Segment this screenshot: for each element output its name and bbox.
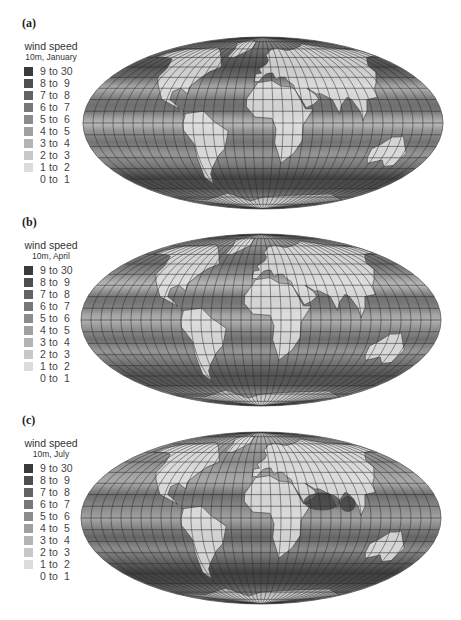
legend-range-label: 3 to 4 xyxy=(40,137,70,149)
legend-swatch xyxy=(24,290,33,299)
legend-title: wind speed xyxy=(20,40,82,52)
legend-range-label: 5 to 6 xyxy=(40,510,70,522)
legend-range-label: 4 to 5 xyxy=(40,125,70,137)
legend-range-label: 6 to 7 xyxy=(40,101,70,113)
panel-label: (c) xyxy=(22,413,35,428)
legend-range-label: 9 to 30 xyxy=(40,65,73,77)
legend-item: 8 to 9 xyxy=(20,276,82,288)
legend-item: 2 to 3 xyxy=(20,546,82,558)
legend-swatch xyxy=(24,91,33,100)
legend: wind speed 10m, July 9 to 308 to 97 to 8… xyxy=(20,437,82,582)
legend-item: 3 to 4 xyxy=(20,336,82,348)
legend-item: 7 to 8 xyxy=(20,288,82,300)
legend-item: 7 to 8 xyxy=(20,89,82,101)
legend-swatch xyxy=(24,266,33,275)
legend-swatch xyxy=(24,127,33,136)
legend-item: 1 to 2 xyxy=(20,558,82,570)
legend-swatch xyxy=(24,338,33,347)
legend-range-label: 1 to 2 xyxy=(40,558,70,570)
legend-item: 6 to 7 xyxy=(20,498,82,510)
legend-title: wind speed xyxy=(20,437,82,449)
legend-item: 7 to 8 xyxy=(20,486,82,498)
legend-swatch xyxy=(24,488,33,497)
legend-item: 5 to 6 xyxy=(20,510,82,522)
legend-swatch xyxy=(24,464,33,473)
legend-range-label: 2 to 3 xyxy=(40,149,70,161)
legend-item: 8 to 9 xyxy=(20,474,82,486)
legend-range-label: 8 to 9 xyxy=(40,474,70,486)
legend: wind speed 10m, January 9 to 308 to 97 t… xyxy=(20,40,82,185)
legend-swatch xyxy=(24,302,33,311)
world-map-july xyxy=(78,430,444,608)
legend-swatch xyxy=(24,560,33,569)
legend-range-label: 0 to 1 xyxy=(40,372,70,384)
legend-item: 4 to 5 xyxy=(20,324,82,336)
legend-swatch xyxy=(24,362,33,371)
legend-rows: 9 to 308 to 97 to 86 to 75 to 64 to 53 t… xyxy=(20,264,82,384)
legend-swatch xyxy=(24,151,33,160)
legend-range-label: 9 to 30 xyxy=(40,264,73,276)
legend-title: wind speed xyxy=(20,239,82,251)
legend-swatch xyxy=(24,548,33,557)
legend-item: 4 to 5 xyxy=(20,522,82,534)
legend: wind speed 10m, April 9 to 308 to 97 to … xyxy=(20,239,82,384)
legend-range-label: 1 to 2 xyxy=(40,161,70,173)
legend-swatch xyxy=(24,163,33,172)
legend-range-label: 0 to 1 xyxy=(40,570,70,582)
panel-a: (a) wind speed 10m, January 9 to 308 to … xyxy=(0,0,461,205)
legend-swatch xyxy=(24,326,33,335)
legend-range-label: 7 to 8 xyxy=(40,486,70,498)
panel-b: (b) wind speed 10m, April 9 to 308 to 97… xyxy=(0,200,461,405)
legend-item: 9 to 30 xyxy=(20,264,82,276)
legend-item: 5 to 6 xyxy=(20,113,82,125)
legend-item: 6 to 7 xyxy=(20,300,82,312)
legend-swatch xyxy=(24,278,33,287)
legend-range-label: 1 to 2 xyxy=(40,360,70,372)
legend-swatch xyxy=(24,314,33,323)
legend-swatch xyxy=(24,350,33,359)
legend-item: 9 to 30 xyxy=(20,462,82,474)
legend-range-label: 0 to 1 xyxy=(40,173,70,185)
legend-item: 8 to 9 xyxy=(20,77,82,89)
legend-subtitle: 10m, July xyxy=(20,449,82,460)
legend-range-label: 6 to 7 xyxy=(40,300,70,312)
panel-c: (c) wind speed 10m, July 9 to 308 to 97 … xyxy=(0,400,461,615)
legend-item: 0 to 1 xyxy=(20,570,82,582)
legend-range-label: 4 to 5 xyxy=(40,324,70,336)
legend-item: 1 to 2 xyxy=(20,360,82,372)
legend-item: 2 to 3 xyxy=(20,149,82,161)
legend-swatch xyxy=(24,374,33,383)
legend-item: 6 to 7 xyxy=(20,101,82,113)
legend-item: 4 to 5 xyxy=(20,125,82,137)
legend-swatch xyxy=(24,512,33,521)
legend-item: 3 to 4 xyxy=(20,137,82,149)
legend-range-label: 7 to 8 xyxy=(40,288,70,300)
legend-range-label: 5 to 6 xyxy=(40,312,70,324)
legend-range-label: 2 to 3 xyxy=(40,348,70,360)
legend-range-label: 5 to 6 xyxy=(40,113,70,125)
legend-range-label: 2 to 3 xyxy=(40,546,70,558)
legend-range-label: 9 to 30 xyxy=(40,462,73,474)
legend-range-label: 6 to 7 xyxy=(40,498,70,510)
legend-swatch xyxy=(24,103,33,112)
legend-rows: 9 to 308 to 97 to 86 to 75 to 64 to 53 t… xyxy=(20,65,82,185)
legend-swatch xyxy=(24,79,33,88)
legend-item: 5 to 6 xyxy=(20,312,82,324)
legend-item: 1 to 2 xyxy=(20,161,82,173)
legend-subtitle: 10m, April xyxy=(20,251,82,262)
legend-item: 9 to 30 xyxy=(20,65,82,77)
legend-swatch xyxy=(24,115,33,124)
legend-item: 0 to 1 xyxy=(20,173,82,185)
world-map-january xyxy=(80,35,446,213)
legend-item: 2 to 3 xyxy=(20,348,82,360)
legend-swatch xyxy=(24,500,33,509)
world-map-april xyxy=(78,232,444,410)
legend-range-label: 8 to 9 xyxy=(40,77,70,89)
legend-rows: 9 to 308 to 97 to 86 to 75 to 64 to 53 t… xyxy=(20,462,82,582)
legend-swatch xyxy=(24,476,33,485)
legend-range-label: 3 to 4 xyxy=(40,336,70,348)
panel-label: (a) xyxy=(22,16,36,31)
legend-swatch xyxy=(24,572,33,581)
legend-swatch xyxy=(24,524,33,533)
legend-item: 0 to 1 xyxy=(20,372,82,384)
